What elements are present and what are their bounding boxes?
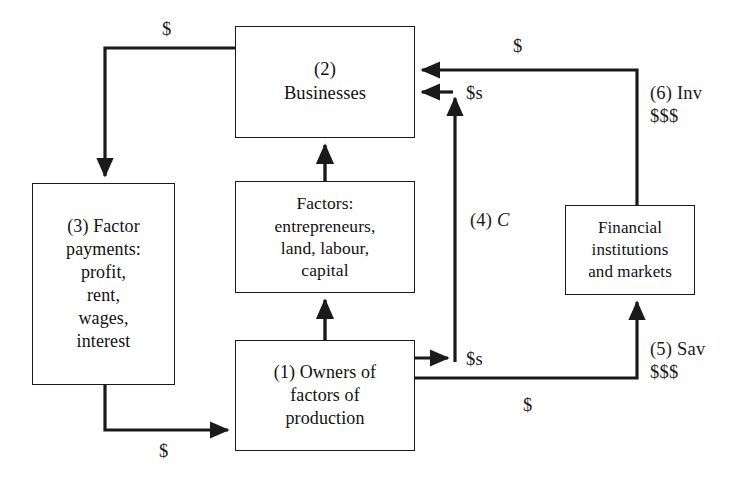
- edge-label-owners-to-consumption: $s: [466, 348, 483, 371]
- edge-label-investment-side-line1: (6) Inv: [650, 82, 702, 105]
- edge-label-businesses-to-factor-payments: $: [162, 18, 171, 41]
- node-financial-institutions-label: Financial institutions and markets: [584, 217, 676, 282]
- edge-label-consumption-top: $s: [466, 82, 483, 105]
- node-factors-label: Factors: entrepreneurs, land, labour, ca…: [271, 192, 380, 282]
- node-factor-payments-label: (3) Factor payments: profit, rent, wages…: [62, 215, 145, 353]
- node-factors[interactable]: Factors: entrepreneurs, land, labour, ca…: [235, 181, 415, 293]
- edge-label-savings-side-line2: $$$: [650, 361, 678, 384]
- edge-label-factor-payments-to-owners: $: [159, 440, 168, 463]
- edge-label-consumption-mid-symbol: C: [497, 210, 510, 230]
- edge-label-consumption-mid-prefix: (4): [470, 210, 492, 230]
- node-financial-institutions[interactable]: Financial institutions and markets: [565, 205, 695, 295]
- edge-label-investment-top: $: [513, 35, 522, 58]
- edge-label-consumption-mid: (4) C: [470, 209, 510, 232]
- node-businesses-label: (2) Businesses: [280, 58, 370, 105]
- edge-savings-owners-to-financial: [414, 302, 637, 378]
- diagram-canvas: (2) Businesses (3) Factor payments: prof…: [0, 0, 736, 487]
- edge-label-investment-side-line2: $$$: [650, 105, 678, 128]
- edge-label-savings-side-line1: (5) Sav: [650, 338, 705, 361]
- node-factor-payments[interactable]: (3) Factor payments: profit, rent, wages…: [32, 183, 175, 385]
- edge-factor-payments-to-owners: [105, 385, 228, 430]
- node-businesses[interactable]: (2) Businesses: [235, 26, 415, 138]
- node-owners[interactable]: (1) Owners of factors of production: [235, 340, 415, 451]
- edge-label-owners-to-savings: $: [523, 394, 532, 417]
- edge-consumption-owners-to-businesses: [414, 92, 455, 362]
- node-owners-label: (1) Owners of factors of production: [270, 361, 380, 430]
- edge-businesses-to-factor-payments: [105, 48, 235, 176]
